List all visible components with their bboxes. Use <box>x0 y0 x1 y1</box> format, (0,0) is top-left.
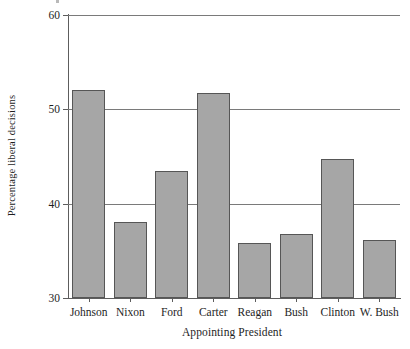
x-tick-mark <box>89 298 90 302</box>
x-tick-mark <box>379 298 380 302</box>
y-tick-label: 50 <box>49 103 61 115</box>
y-axis-title: Percentage liberal decisions <box>0 0 24 310</box>
x-tick-mark <box>130 298 131 302</box>
x-tick-label: Bush <box>284 306 308 318</box>
x-tick-mark <box>338 298 339 302</box>
bar-bush <box>280 234 313 298</box>
x-axis-title: Appointing President <box>60 326 404 338</box>
bar-nixon <box>114 222 147 298</box>
bar-johnson <box>72 90 105 298</box>
x-tick-label: Nixon <box>116 306 145 318</box>
y-tick-label: 30 <box>49 292 61 304</box>
x-tick-label: Carter <box>199 306 228 318</box>
y-axis-title-text: Percentage liberal decisions <box>7 94 18 215</box>
bar-chart-figure: Percentage liberal decisions 30405060 Jo… <box>0 0 410 349</box>
x-tick-label: Clinton <box>320 306 355 318</box>
x-tick-mark <box>255 298 256 302</box>
x-axis-line <box>68 298 401 299</box>
plot-area: 30405060 JohnsonNixonFordCarterReaganBus… <box>68 15 400 298</box>
bars-group <box>68 15 400 298</box>
bar-w-bush <box>363 240 396 298</box>
bar-reagan <box>238 243 271 298</box>
x-tick-mark <box>172 298 173 302</box>
y-tick-label: 60 <box>49 9 61 21</box>
bar-carter <box>197 93 230 298</box>
x-tick-label: Ford <box>161 306 183 318</box>
scan-artifact-mark <box>56 0 59 3</box>
x-tick-mark <box>213 298 214 302</box>
x-tick-label: Reagan <box>238 306 272 318</box>
y-tick-mark <box>63 298 68 299</box>
bar-clinton <box>321 159 354 298</box>
y-tick-label: 40 <box>49 198 61 210</box>
bar-ford <box>155 171 188 298</box>
x-tick-label: W. Bush <box>360 306 399 318</box>
x-tick-label: Johnson <box>70 306 108 318</box>
x-tick-mark <box>296 298 297 302</box>
